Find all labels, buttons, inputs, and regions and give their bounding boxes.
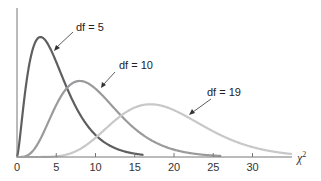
arrow-df10 [104, 72, 115, 84]
x-tick-label: 30 [246, 161, 258, 173]
x-tick-label: 15 [129, 161, 141, 173]
x-tick-label: 0 [14, 161, 20, 173]
chi-square-chart: 051015202530 χ2 df = 5 df = 10 df = 19 [0, 0, 321, 181]
arrowhead-df5-icon [54, 45, 60, 51]
curve-df19 [17, 104, 291, 157]
x-tick-label: 5 [53, 161, 59, 173]
annotation-df10: df = 10 [119, 59, 153, 71]
curve-df5 [17, 37, 143, 157]
annotation-df5: df = 5 [76, 21, 104, 33]
annotation-df19: df = 19 [207, 86, 241, 98]
x-tick-label: 10 [89, 161, 101, 173]
arrow-df19 [193, 99, 211, 112]
arrowhead-df19-icon [189, 109, 195, 115]
arrow-df5 [57, 32, 73, 47]
x-tick-label: 20 [168, 161, 180, 173]
x-tick-label: 25 [207, 161, 219, 173]
x-axis-label: χ2 [296, 150, 306, 165]
curves [17, 37, 291, 157]
